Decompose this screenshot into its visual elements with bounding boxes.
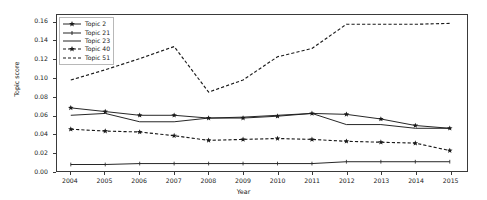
x-tick-label: 2015: [436, 178, 466, 184]
series-marker: [275, 136, 280, 141]
x-tick-mark: [174, 172, 175, 175]
x-tick-label: 2009: [228, 178, 258, 184]
legend-item-topic-2[interactable]: Topic 2: [62, 20, 110, 28]
series-marker: [413, 123, 418, 128]
plot-area: [56, 14, 468, 172]
y-tick-label: 0.14: [18, 37, 48, 43]
y-tick-label: 0.00: [18, 169, 48, 175]
series-topic-21: [71, 160, 450, 167]
legend-label: Topic 2: [85, 21, 106, 27]
y-tick-mark: [53, 172, 56, 173]
x-tick-label: 2011: [297, 178, 327, 184]
series-marker: [447, 148, 452, 153]
x-tick-mark: [208, 172, 209, 175]
y-tick-label: 0.12: [18, 56, 48, 62]
y-tick-label: 0.04: [18, 131, 48, 137]
y-tick-label: 0.06: [18, 112, 48, 118]
series-lines: [57, 15, 467, 171]
x-tick-mark: [104, 172, 105, 175]
x-tick-label: 2014: [401, 178, 431, 184]
x-tick-mark: [243, 172, 244, 175]
x-tick-mark: [381, 172, 382, 175]
y-tick-label: 0.10: [18, 75, 48, 81]
x-tick-label: 2005: [89, 178, 119, 184]
x-tick-label: 2013: [366, 178, 396, 184]
series-marker: [378, 139, 383, 144]
x-tick-mark: [70, 172, 71, 175]
legend-swatch-icon: [62, 54, 82, 62]
legend-swatch-icon: [62, 37, 82, 45]
chart-figure: Topic score 0.000.020.040.060.080.100.12…: [0, 0, 487, 200]
series-marker: [102, 128, 107, 133]
x-tick-mark: [139, 172, 140, 175]
series-marker: [344, 138, 349, 143]
legend-item-topic-23[interactable]: Topic 23: [62, 37, 110, 45]
series-topic-51: [71, 23, 450, 92]
y-tick-label: 0.02: [18, 150, 48, 156]
series-line: [71, 129, 450, 150]
legend-label: Topic 40: [85, 46, 110, 52]
legend-item-topic-40[interactable]: Topic 40: [62, 45, 110, 53]
series-marker: [378, 116, 383, 121]
x-tick-mark: [416, 172, 417, 175]
x-tick-mark: [312, 172, 313, 175]
series-marker: [171, 112, 176, 117]
series-marker: [68, 126, 73, 131]
legend-swatch-icon: [62, 20, 82, 28]
x-tick-mark: [347, 172, 348, 175]
x-tick-label: 2012: [332, 178, 362, 184]
y-tick-label: 0.08: [18, 94, 48, 100]
series-line: [71, 23, 450, 92]
legend-swatch-icon: [62, 45, 82, 53]
series-marker: [68, 105, 73, 110]
series-marker: [344, 111, 349, 116]
legend-label: Topic 51: [85, 55, 110, 61]
series-topic-40: [68, 126, 452, 153]
x-tick-label: 2004: [55, 178, 85, 184]
series-marker: [309, 137, 314, 142]
x-tick-label: 2007: [159, 178, 189, 184]
series-line: [71, 108, 450, 128]
legend-label: Topic 23: [85, 38, 110, 44]
x-tick-mark: [278, 172, 279, 175]
legend-item-topic-21[interactable]: Topic 21: [62, 28, 110, 36]
x-axis-title: Year: [0, 189, 487, 195]
series-marker: [275, 113, 280, 118]
x-tick-label: 2010: [263, 178, 293, 184]
series-marker: [240, 115, 245, 120]
x-tick-label: 2008: [193, 178, 223, 184]
series-marker: [137, 129, 142, 134]
legend-swatch-icon: [62, 29, 82, 37]
series-marker: [171, 133, 176, 138]
series-marker: [137, 112, 142, 117]
chart-legend[interactable]: Topic 2Topic 21Topic 23Topic 40Topic 51: [59, 17, 114, 65]
legend-item-topic-51[interactable]: Topic 51: [62, 54, 110, 62]
series-marker: [240, 137, 245, 142]
legend-label: Topic 21: [85, 30, 110, 36]
series-line: [71, 162, 450, 165]
x-tick-mark: [451, 172, 452, 175]
x-tick-label: 2006: [124, 178, 154, 184]
y-tick-label: 0.16: [18, 18, 48, 24]
series-marker: [206, 137, 211, 142]
series-topic-2: [68, 105, 452, 131]
series-marker: [413, 140, 418, 145]
